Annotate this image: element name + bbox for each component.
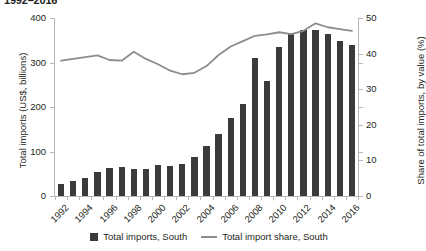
x-axis-line: [54, 196, 359, 197]
legend-item-total-imports-south: Total imports, South: [90, 231, 187, 242]
y-axis-left-tick-200: 200: [0, 101, 46, 112]
axis-tick-mark: [164, 196, 165, 200]
y-axis-left-tick-400: 400: [0, 12, 46, 23]
axis-tick-mark: [200, 196, 201, 200]
line-series-total-import-share-south: [55, 18, 358, 196]
axis-tick-mark: [55, 196, 56, 200]
axis-tick-mark: [358, 196, 359, 200]
axis-tick-mark: [359, 18, 363, 19]
y-axis-right-tick-10: 10: [366, 154, 377, 165]
axis-tick-mark: [128, 196, 129, 200]
axis-tick-mark: [359, 152, 363, 153]
axis-tick-mark: [50, 18, 54, 19]
axis-tick-mark: [346, 196, 347, 200]
y-axis-left-tick-100: 100: [0, 146, 46, 157]
axis-tick-mark: [310, 196, 311, 200]
axis-tick-mark: [285, 196, 286, 200]
chart-title: 1992–2016: [4, 0, 57, 6]
y-axis-right-tick-40: 40: [366, 48, 377, 59]
y-axis-right-title: Share of total imports, by value (%): [415, 16, 426, 206]
axis-tick-mark: [273, 196, 274, 200]
legend-label-total-imports-south: Total imports, South: [103, 231, 187, 242]
axis-tick-mark: [188, 196, 189, 200]
y-axis-right-tick-30: 30: [366, 83, 377, 94]
axis-tick-mark: [176, 196, 177, 200]
axis-tick-mark: [50, 152, 54, 153]
axis-tick-mark: [103, 196, 104, 200]
y-axis-left-tick-0: 0: [0, 190, 46, 201]
axis-tick-mark: [116, 196, 117, 200]
y-axis-right-tick-20: 20: [366, 119, 377, 130]
axis-tick-mark: [237, 196, 238, 200]
axis-tick-mark: [297, 196, 298, 200]
axis-tick-mark: [359, 196, 363, 197]
axis-tick-mark: [322, 196, 323, 200]
y-axis-right-tick-50: 50: [366, 12, 377, 23]
axis-tick-mark: [359, 54, 363, 55]
axis-tick-mark: [359, 125, 363, 126]
axis-tick-mark: [225, 196, 226, 200]
axis-tick-mark: [359, 89, 363, 90]
square-swatch-icon: [90, 233, 98, 241]
axis-tick-mark: [140, 196, 141, 200]
axis-tick-mark: [79, 196, 80, 200]
axis-tick-mark: [261, 196, 262, 200]
axis-tick-mark: [91, 196, 92, 200]
axis-tick-mark: [67, 196, 68, 200]
legend-label-total-import-share-south: Total import share, South: [222, 231, 328, 242]
line-swatch-icon: [201, 236, 217, 238]
axis-tick-mark: [50, 107, 54, 108]
axis-tick-mark: [359, 160, 363, 161]
axis-tick-mark: [50, 196, 54, 197]
axis-tick-mark: [334, 196, 335, 200]
axis-tick-mark: [50, 63, 54, 64]
legend-item-total-import-share-south: Total import share, South: [201, 231, 328, 242]
plot-area: 1992199419961998200020022004200620082010…: [55, 18, 358, 196]
y-axis-left-tick-300: 300: [0, 57, 46, 68]
axis-tick-mark: [213, 196, 214, 200]
chart-legend: Total imports, South Total import share,…: [0, 231, 418, 242]
axis-tick-mark: [249, 196, 250, 200]
axis-tick-mark: [152, 196, 153, 200]
share-line-path: [61, 23, 352, 74]
axis-tick-mark: [359, 107, 363, 108]
y-axis-right-tick-0: 0: [366, 190, 371, 201]
axis-tick-mark: [359, 63, 363, 64]
